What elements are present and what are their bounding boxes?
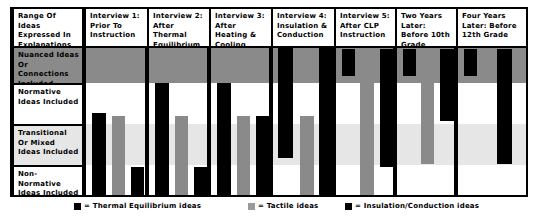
chart-legend: = Thermal Equilibrium ideas = Tactile id… (0, 202, 538, 218)
bar-thermal-equilibrium (278, 48, 293, 158)
bar-tactile (360, 49, 374, 195)
bar-insulation-conduction (256, 116, 269, 195)
bar-tactile (112, 116, 125, 195)
legend-item-thermal-equilibrium: = Thermal Equilibrium ideas (74, 202, 201, 210)
bar-thermal-equilibrium (217, 83, 231, 195)
bar-thermal-equilibrium (403, 49, 416, 76)
legend-label: = Insulation/Conduction ideas (355, 202, 479, 210)
black-square-icon (345, 203, 352, 210)
gray-square-icon (248, 203, 255, 210)
data-column-interview-2 (147, 46, 209, 195)
column-header-interview-1: Interview 1: Prior To Instruction (84, 7, 149, 48)
data-column-two-years-later (395, 46, 456, 195)
data-column-interview-4 (271, 46, 334, 195)
row-label-nuanced: Nuanced Ideas Or Connections Included (12, 46, 84, 85)
row-label-non-normative: Non-Normative Ideas Included (12, 165, 84, 197)
row-label-normative: Normative Ideas Included (12, 83, 84, 126)
column-header-two-years-later: Two Years Later: Before 10th Grade (395, 7, 458, 48)
column-header-four-years-later: Four Years Later: Before 12th Grade (456, 7, 528, 48)
legend-label: = Tactile ideas (258, 202, 318, 210)
bar-tactile (175, 116, 188, 195)
row-label-transitional: Transitional Or Mixed Ideas Included (12, 124, 84, 167)
bar-tactile (300, 116, 314, 195)
bar-thermal-equilibrium (155, 83, 169, 195)
legend-item-tactile: = Tactile ideas (248, 202, 318, 210)
legend-label: = Thermal Equilibrium ideas (84, 202, 201, 210)
bar-insulation-conduction (319, 48, 333, 195)
bar-thermal-equilibrium (464, 49, 477, 76)
legend-item-insulation-conduction: = Insulation/Conduction ideas (345, 202, 479, 210)
data-column-interview-5 (334, 46, 395, 195)
bar-insulation-conduction (380, 49, 393, 167)
bar-insulation-conduction (497, 49, 512, 164)
bar-thermal-equilibrium (342, 49, 355, 76)
row-label-column: Range Of Ideas Expressed In Explanations… (12, 9, 84, 195)
bar-insulation-conduction (194, 167, 207, 195)
column-header-interview-3: Interview 3: After Heating & Cooling (209, 7, 273, 48)
bar-tactile (421, 49, 434, 164)
data-column-interview-1 (84, 46, 147, 195)
chart-container: Range Of Ideas Expressed In Explanations… (10, 7, 528, 197)
black-square-icon (74, 203, 81, 210)
bar-tactile (237, 116, 250, 195)
bar-insulation-conduction (440, 49, 454, 121)
column-header-interview-4: Interview 4: Insulation & Conduction (271, 7, 336, 48)
data-column-four-years-later (456, 46, 528, 195)
bar-thermal-equilibrium (92, 113, 106, 195)
data-column-interview-3 (209, 46, 271, 195)
row-header-title: Range Of Ideas Expressed In Explanations (12, 7, 84, 48)
bar-insulation-conduction (131, 167, 144, 195)
column-header-interview-5: Interview 5: After CLP Instruction (334, 7, 397, 48)
column-header-interview-2: Interview 2: After Thermal Equilibrium (147, 7, 211, 48)
